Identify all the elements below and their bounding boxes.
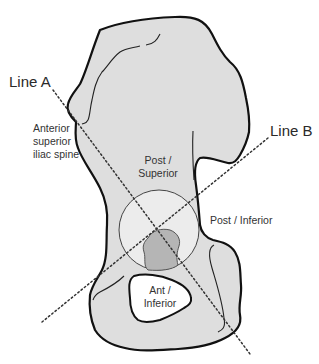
line-a-label: Line A — [9, 73, 51, 92]
asis-label-line-1: Anterior — [33, 122, 79, 135]
ant-inferior-label: Ant / Inferior — [138, 284, 182, 310]
post-superior-line-2: Superior — [133, 167, 183, 180]
post-inferior-label: Post / Inferior — [210, 214, 272, 227]
ant-inferior-line-1: Ant / — [138, 284, 182, 297]
line-b-label: Line B — [270, 122, 313, 141]
asis-label-line-3: iliac spine — [33, 148, 79, 161]
asis-label-line-2: superior — [33, 135, 79, 148]
ant-inferior-line-2: Inferior — [138, 297, 182, 310]
post-superior-line-1: Post / — [133, 154, 183, 167]
asis-label: Anterior superior iliac spine — [33, 122, 79, 161]
post-superior-label: Post / Superior — [133, 154, 183, 180]
